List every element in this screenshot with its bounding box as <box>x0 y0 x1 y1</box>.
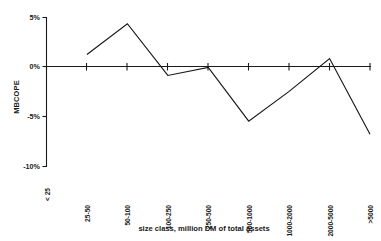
series-group <box>87 24 370 134</box>
y-tick-label-5: 5% <box>30 13 41 22</box>
y-axis: 5% 0% -5% -10% MBCOPE <box>12 13 47 171</box>
y-tick-label-minus5: -5% <box>27 112 40 121</box>
x-tick-label-2: 50-100 <box>124 205 131 226</box>
chart-canvas: 5% 0% -5% -10% MBCOPE < 25 25-50 50-100 … <box>0 0 381 241</box>
series-line-mbcope <box>87 24 370 134</box>
line-chart: 5% 0% -5% -10% MBCOPE < 25 25-50 50-100 … <box>0 0 381 241</box>
x-tick-label-0: < 25 <box>44 188 51 201</box>
x-tick-label-1: 25-50 <box>84 205 91 222</box>
x-axis: < 25 25-50 50-100 100-250 250-500 500-10… <box>44 63 375 237</box>
y-tick-label-minus10: -10% <box>23 162 40 171</box>
x-axis-title: size class, million DM of total assets <box>138 224 269 233</box>
x-tick-label-8: >5000 <box>367 205 374 224</box>
x-tick-label-7: 2000-5000 <box>327 205 334 237</box>
y-tick-label-0: 0% <box>30 62 41 71</box>
y-axis-title: MBCOPE <box>12 80 21 114</box>
x-tick-label-6: 1000-2000 <box>286 205 293 237</box>
